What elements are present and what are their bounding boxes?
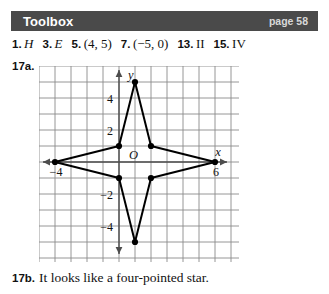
answer-item: 15. IV [214, 36, 246, 52]
answer-item: 1. H [12, 36, 33, 52]
x-tick-label: 6 [213, 165, 219, 179]
graph-svg: 42−2−4−46yxO [39, 66, 239, 262]
y-tick-label: −2 [100, 188, 113, 202]
answer-value: (4, 5) [84, 36, 112, 52]
data-point [132, 239, 138, 245]
y-tick-label: −4 [100, 220, 113, 234]
data-point [116, 175, 122, 181]
data-point [148, 143, 154, 149]
y-axis-arrow-down [116, 247, 123, 254]
answer-value: (−5, 0) [133, 36, 169, 52]
answer-value: E [55, 36, 63, 52]
toolbox-answer-page: Toolbox page 58 1. H 3. E 5. (4, 5) 7. (… [0, 0, 329, 294]
answer-value: IV [232, 36, 246, 52]
coordinate-plane-graph: 42−2−4−46yxO [39, 66, 239, 262]
y-tick-label: 2 [107, 124, 113, 138]
problem-17b-label: 17b. [12, 272, 35, 284]
x-axis-arrow-right [220, 159, 227, 166]
data-point [148, 175, 154, 181]
y-axis-arrow-up [116, 70, 123, 77]
answer-number: 1. [12, 38, 22, 50]
answer-item: 7. (−5, 0) [121, 36, 169, 52]
answer-item: 3. E [42, 36, 62, 52]
problem-17b-row: 17b. It looks like a four-pointed star. [12, 270, 209, 286]
x-axis-label: x [214, 145, 221, 159]
answer-item: 13. II [177, 36, 204, 52]
answer-number: 13. [177, 38, 193, 50]
page-number-label: page 58 [269, 16, 308, 27]
answers-row: 1. H 3. E 5. (4, 5) 7. (−5, 0) 13. II 15… [12, 36, 322, 54]
problem-17a-label: 17a. [12, 60, 34, 72]
answer-number: 15. [214, 38, 230, 50]
answer-value: H [24, 36, 33, 52]
page-header-bar: Toolbox page 58 [11, 11, 318, 31]
answer-number: 7. [121, 38, 131, 50]
y-axis-label: y [126, 68, 134, 82]
answer-number: 3. [42, 38, 52, 50]
page-title: Toolbox [23, 15, 73, 28]
problem-17b-text: It looks like a four-pointed star. [39, 270, 209, 286]
x-tick-label: −4 [50, 165, 63, 179]
answer-value: II [196, 36, 205, 52]
answer-item: 5. (4, 5) [72, 36, 112, 52]
data-point [116, 143, 122, 149]
y-tick-label: 4 [107, 92, 113, 106]
origin-label: O [129, 148, 138, 162]
answer-number: 5. [72, 38, 82, 50]
